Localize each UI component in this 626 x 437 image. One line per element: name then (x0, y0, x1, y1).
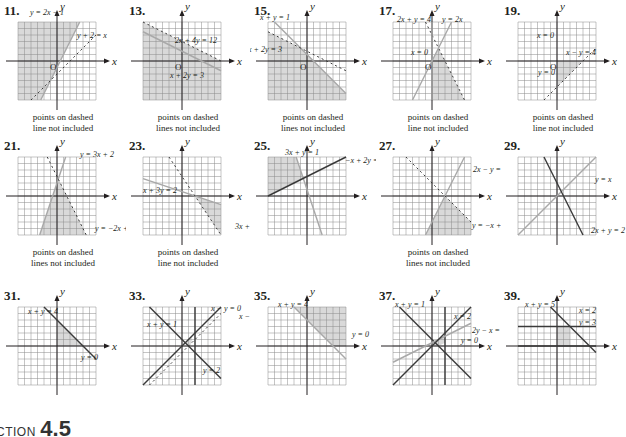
y-axis-arrow-icon (180, 145, 185, 151)
y-axis-label: y (59, 285, 65, 297)
y-axis-arrow-icon (430, 145, 435, 151)
graph-note: points on dashedlines not included (8, 247, 118, 269)
x-axis-label: x (361, 55, 367, 67)
equation-label: 2y − x = 1 (472, 326, 501, 335)
problem-15: 15.xyOx + y = 1x + 2y = 3points on dashe… (250, 0, 376, 150)
x-axis-arrow-icon (354, 59, 360, 64)
y-axis-arrow-icon (555, 145, 560, 151)
origin-label: O (300, 62, 307, 72)
equation-label: x − y = 4 (565, 48, 596, 57)
graph-23: xyx + 3y = 23x + 2y = 6 (125, 135, 251, 250)
graph-note-line: points on dashed (8, 112, 118, 123)
origin-label: O (50, 62, 57, 72)
x-axis-arrow-icon (104, 344, 110, 349)
equation-label: 3x + y = 1 (284, 148, 319, 157)
y-axis-label: y (434, 285, 440, 297)
x-axis-arrow-icon (104, 59, 110, 64)
x-axis-label: x (111, 55, 117, 67)
graph-note: points on dashedlines not included (258, 112, 368, 134)
y-axis-arrow-icon (305, 10, 310, 16)
x-axis-arrow-icon (104, 194, 110, 199)
graph-33: xyx − y = 0x − yx + y = 1y = 2 (125, 285, 251, 400)
graph-note-line: points on dashed (133, 112, 243, 123)
problem-25: 25.xy3x + y = 1−x + 2y = 6 (250, 135, 376, 285)
x-axis-label: x (361, 340, 367, 352)
graph-35: xyx + y = 4y = 0 (250, 285, 376, 400)
graph-15: xyOx + y = 1x + 2y = 3 (250, 0, 376, 115)
graph-note-line: points on dashed (133, 247, 243, 258)
graph-note-line: points on dashed (383, 112, 493, 123)
equation-label: x + y = 4 (27, 307, 58, 316)
x-axis-arrow-icon (229, 194, 235, 199)
problem-31: 31.xyx + y = 4y = 0 (0, 285, 126, 435)
y-axis-label: y (59, 135, 65, 147)
equation-label: x = 2 (453, 312, 471, 321)
equation-label: y = 2 (202, 366, 220, 375)
equation-label: y + 2 = x (76, 31, 107, 40)
x-axis-arrow-icon (354, 194, 360, 199)
equation-label: x + 2y = 3 (250, 45, 282, 54)
x-axis-label: x (236, 55, 242, 67)
x-axis-arrow-icon (604, 59, 610, 64)
graph-note-line: lines not included (258, 123, 368, 134)
x-axis-arrow-icon (479, 59, 485, 64)
problem-35: 35.xyx + y = 4y = 0 (250, 285, 376, 435)
shaded-region (40, 179, 87, 235)
equation-label: 2x + 4y = 12 (175, 36, 217, 45)
graph-31: xyx + y = 4y = 0 (0, 285, 126, 400)
x-axis-label: x (486, 340, 492, 352)
graph-37: xyx + y = 1x = 22y − x = 1y = 0 (375, 285, 501, 400)
equation-label: x = 2 (578, 306, 596, 315)
problem-21: 21.xyy = 3x + 2y = −2x + 3points on dash… (0, 135, 126, 285)
problem-29: 29.xyy = x2x + y = 2 (500, 135, 626, 285)
equation-label: y = 3x + 2 (79, 150, 114, 159)
y-axis-label: y (434, 135, 440, 147)
equation-label: x + y = 4 (277, 300, 308, 309)
problem-23: 23.xyx + 3y = 23x + 2y = 6points on dash… (125, 135, 251, 285)
y-axis-label: y (309, 135, 315, 147)
x-axis-arrow-icon (479, 344, 485, 349)
graph-note-line: line not included (508, 123, 618, 134)
graph-note-line: line not included (8, 123, 118, 134)
y-axis-arrow-icon (55, 145, 60, 151)
x-axis-label: x (611, 340, 617, 352)
graph-17: xyO2x + y = 4y = 2xx = 0 (375, 0, 501, 115)
graph-note: points on dashedlines not included (383, 247, 493, 269)
y-axis-label: y (559, 285, 565, 297)
problem-11: 11.xyOy = 2x − 1y + 2 = xpoints on dashe… (0, 0, 126, 150)
equation-label: 3x + 2y = 6 (234, 222, 251, 231)
equation-label: x + y = 5 (524, 300, 555, 309)
equation-label: y = −2x + 3 (94, 224, 126, 233)
y-axis-arrow-icon (180, 10, 185, 16)
graph-note-line: lines not included (8, 258, 118, 269)
graph-note-line: points on dashed (508, 112, 618, 123)
graph-11: xyOy = 2x − 1y + 2 = x (0, 0, 126, 115)
equation-label: y = 2x − 1 (29, 8, 64, 17)
x-axis-arrow-icon (604, 194, 610, 199)
section-heading: CTION 4.5 (0, 416, 71, 437)
y-axis-label: y (184, 0, 190, 12)
x-axis-label: x (236, 190, 242, 202)
x-axis-arrow-icon (229, 344, 235, 349)
graph-19: xyOx = 0x − y = 4y = 0 (500, 0, 626, 115)
y-axis-arrow-icon (55, 295, 60, 301)
graph-note: points on dashedlines not included (133, 112, 243, 134)
equation-label: x + 2y = 3 (169, 71, 204, 80)
equation-label: x + 3y = 2 (142, 186, 177, 195)
graph-note-line: points on dashed (8, 247, 118, 258)
x-axis-arrow-icon (229, 59, 235, 64)
x-axis-label: x (611, 55, 617, 67)
graph-25: xy3x + y = 1−x + 2y = 6 (250, 135, 376, 250)
graph-note: points on dashedline not included (383, 112, 493, 134)
x-axis-arrow-icon (604, 344, 610, 349)
section-heading-number: 4.5 (40, 416, 71, 437)
y-axis-label: y (309, 0, 315, 12)
y-axis-label: y (434, 0, 440, 12)
y-axis-label: y (559, 0, 565, 12)
equation-label: y = 2x (441, 15, 463, 24)
y-axis-arrow-icon (180, 295, 185, 301)
graph-note-line: lines not included (383, 258, 493, 269)
problem-17: 17.xyO2x + y = 4y = 2xx = 0points on das… (375, 0, 501, 150)
x-axis-arrow-icon (479, 194, 485, 199)
equation-label: x + y = 1 (259, 13, 290, 22)
